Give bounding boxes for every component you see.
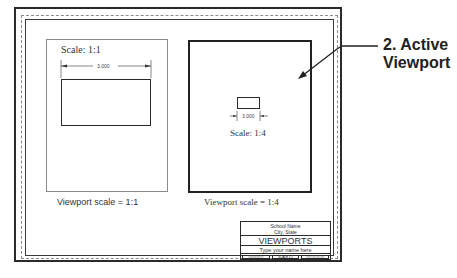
drawing-number-cell: ###.##.##.## xyxy=(301,255,329,259)
date-cell: ##/##/#### xyxy=(242,255,270,259)
scale-label-1-1: Scale: 1:1 xyxy=(61,44,101,55)
dimension-text-1-1: 3.000 xyxy=(97,63,110,69)
scale-cell: SCALE 1:1 xyxy=(272,255,300,259)
student-name-field: Type your name here xyxy=(241,246,330,254)
title-block-school-row: School Name City, State xyxy=(241,222,330,236)
rectangle-object-1-4 xyxy=(237,97,260,109)
dimension-text-1-4: 3.000 xyxy=(242,113,255,119)
drawing-title: VIEWPORTS xyxy=(241,236,330,246)
callout-line-1: 2. Active xyxy=(383,36,450,54)
callout-label: 2. Active Viewport xyxy=(383,36,450,72)
viewport-caption-1-4: Viewport scale = 1:4 xyxy=(204,197,279,207)
title-block: School Name City, State VIEWPORTS Type y… xyxy=(240,221,331,260)
title-block-info-row: ##/##/#### SCALE 1:1 ###.##.##.## xyxy=(242,255,329,259)
viewport-caption-1-1: Viewport scale = 1:1 xyxy=(57,197,138,207)
callout-line-2: Viewport xyxy=(383,54,450,72)
rectangle-object-1-1 xyxy=(61,79,151,126)
scale-label-1-4: Scale: 1:4 xyxy=(230,128,266,138)
city-state: City, State xyxy=(241,229,330,235)
callout-leader-arrow xyxy=(290,38,380,80)
